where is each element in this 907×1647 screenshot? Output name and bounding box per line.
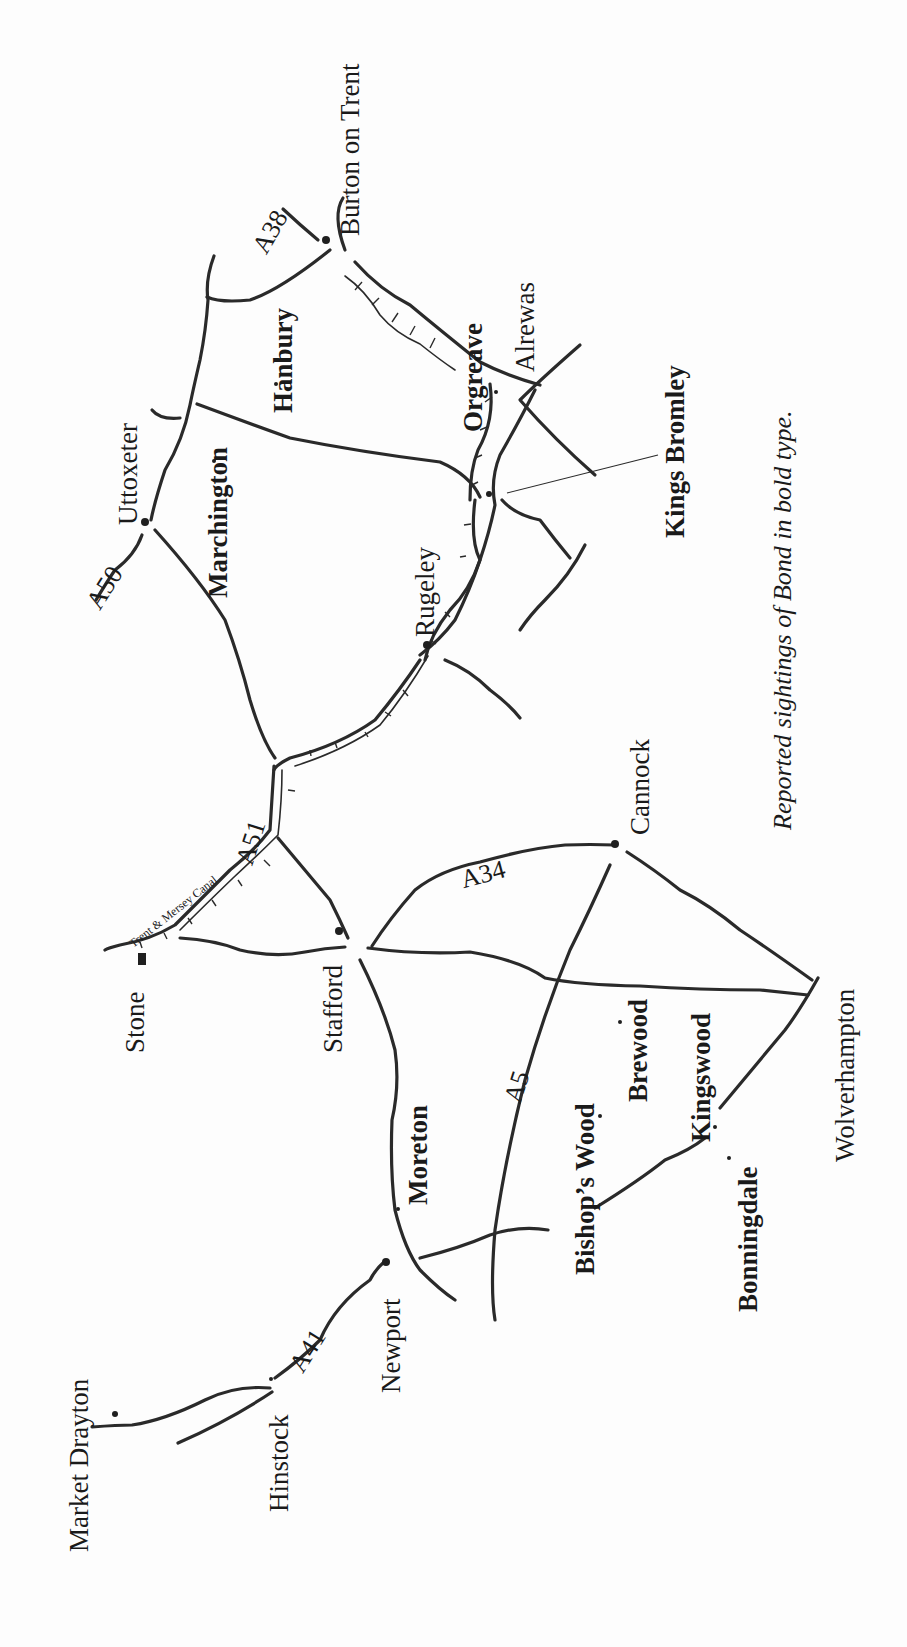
label-stone: Stone [122,991,149,1053]
road-rugeley-east [520,545,585,630]
road-stone-stafford [180,938,345,955]
dot-orgreave [494,390,498,394]
dot-market-drayton [112,1411,118,1417]
label-kings-bromley: Kings Bromley [662,365,689,538]
label-marchington: Marchington [205,447,232,598]
label-bonningdale: Bonningdale [735,1166,762,1312]
road-hinstock-market-drayton [92,1388,270,1428]
label-moreton: Moreton [405,1105,432,1205]
dot-moreton [396,1207,400,1211]
map-caption: Reported sightings of Bond in bold type. [770,410,796,830]
dot-bonningdale [727,1156,731,1160]
dot-cannock [611,840,619,848]
label-rugeley: Rugeley [412,547,439,637]
dot-kings-bromley [486,491,492,497]
dot-brewood [618,1020,622,1024]
label-bishops-wood: Bishop’s Wood [572,1103,599,1275]
road-kings-bromley-south [502,500,570,558]
label-alrewas: Alrewas [512,282,539,372]
label-stafford: Stafford [320,965,347,1053]
label-kingswood: Kingswood [688,1013,715,1142]
dot-burton [322,236,330,244]
label-hanbury: Hanbury [270,308,297,413]
dot-hinstock [269,1377,273,1381]
dot-rugeley [423,641,431,649]
label-market-drayton: Market Drayton [66,1379,93,1552]
road-a51-stafford [278,838,348,938]
canal-burton-orgreave [345,276,455,370]
label-burton-on-trent: Burton on Trent [337,63,364,236]
kings-bromley-leader [507,455,658,493]
map-page: Burton on Trent Uttoxeter Hanbury Marchi… [0,0,907,1647]
road-cannock-wolverhampton [627,852,812,980]
dot-stafford [335,927,343,935]
dot-newport [382,1258,390,1266]
road-stafford-east [368,948,808,995]
label-wolverhampton: Wolverhampton [832,989,859,1162]
label-cannock: Cannock [627,739,654,835]
road-rugeley-a51 [274,660,420,770]
road-rugeley-southeast [445,660,520,718]
road-hinstock-southwest [178,1392,272,1443]
label-uttoxeter: Uttoxeter [115,423,142,525]
label-hinstock: Hinstock [266,1415,293,1513]
road-hanbury-kings-bromley [197,404,480,497]
label-orgreave: Orgreave [460,323,487,432]
road-kingswood-wolverhampton [720,978,818,1108]
road-newport-a5 [420,1228,548,1258]
label-newport: Newport [378,1299,405,1393]
road-uttoxeter-stub [152,410,180,418]
label-brewood: Brewood [625,999,652,1102]
canal-lock-marker [138,953,146,965]
road-bishops-wood-kingswood [595,1138,705,1208]
road-burton-west [207,250,330,301]
